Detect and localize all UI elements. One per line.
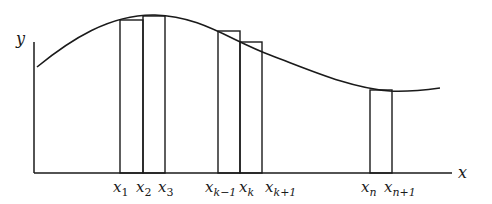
- label-xn+1: xn+1: [384, 178, 416, 199]
- x-axis-label: x: [458, 163, 467, 182]
- diagram-canvas: y x x1 x2 x3 xk−1 xk xk+1 xn xn+1: [0, 0, 492, 204]
- label-xk: xk: [239, 178, 254, 199]
- label-xk-1: xk−1: [205, 178, 236, 199]
- rectangle-k: [240, 42, 262, 173]
- label-xk+1: xk+1: [265, 178, 296, 199]
- label-xn: xn: [361, 178, 377, 199]
- label-x2: x2: [136, 178, 151, 199]
- label-x1: x1: [113, 178, 128, 199]
- function-curve: [37, 15, 440, 91]
- rectangle-1: [120, 20, 143, 173]
- rectangle-n: [370, 90, 392, 173]
- rectangle-2: [143, 16, 165, 173]
- y-axis-label: y: [15, 29, 26, 48]
- riemann-sum-diagram: y x x1 x2 x3 xk−1 xk xk+1 xn xn+1: [0, 0, 492, 204]
- rectangle-k-1: [218, 31, 240, 173]
- partition-labels: x1 x2 x3 xk−1 xk xk+1 xn xn+1: [113, 178, 416, 199]
- label-x3: x3: [158, 178, 173, 199]
